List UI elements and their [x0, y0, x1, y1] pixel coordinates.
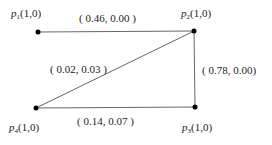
edge-label-p4-p3: ( 0.14, 0.07 ) — [77, 116, 134, 127]
node-args: (1,0) — [190, 7, 211, 19]
node-args: (1,0) — [20, 7, 41, 19]
node-p4 — [34, 106, 39, 111]
edge-label-p4-p2: ( 0.02, 0.03 ) — [50, 64, 107, 75]
node-p1 — [36, 30, 41, 35]
node-label-p2: p2(1,0) — [181, 8, 211, 21]
edge-label-p1-p2: ( 0.46, 0.00 ) — [79, 13, 136, 24]
node-label-p4: p4(1,0) — [9, 122, 39, 135]
edge-p2-p3 — [194, 31, 195, 107]
edge-label-p2-p3: ( 0.78, 0.00) — [202, 65, 256, 76]
node-label-p3: p3(1,0) — [182, 122, 212, 135]
edge-p1-p2 — [38, 31, 194, 32]
node-p2 — [192, 29, 197, 34]
edge-p4-p3 — [36, 107, 195, 108]
node-args: (1,0) — [18, 121, 39, 133]
node-args: (1,0) — [191, 121, 212, 133]
node-p3 — [193, 105, 198, 110]
node-label-p1: p1(1,0) — [11, 8, 41, 21]
